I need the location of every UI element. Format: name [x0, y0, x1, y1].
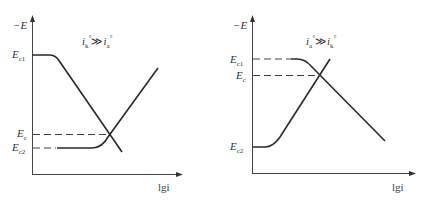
x-axis [253, 171, 417, 176]
y-axis-label: −E [233, 20, 247, 31]
x-axis-label: lgi [392, 182, 404, 193]
level-label-ec2: Ec2 [12, 142, 25, 156]
level-label-ec1: Ec1 [12, 49, 25, 63]
cathodic-curve [291, 59, 385, 141]
y-axis [30, 15, 35, 175]
level-label-ec: Ec [236, 70, 246, 84]
anodic-curve [253, 59, 330, 147]
y-axis [250, 15, 255, 174]
x-axis [33, 172, 184, 177]
level-label-ec1: Ec1 [230, 54, 243, 68]
x-axis-label: lgi [158, 182, 170, 193]
diagram-left-plot [0, 0, 213, 201]
y-axis-label: −E [13, 20, 27, 31]
condition-label: ik°≫ia° [82, 35, 112, 50]
condition-label: ia°≫ik° [306, 35, 336, 50]
polarization-diagram-right: −E Ec1 Ec Ec2 ia°≫ik° lgi [213, 0, 426, 201]
level-label-ec2: Ec2 [230, 141, 243, 155]
polarization-diagram-left: −E Ec1 Ec Ec2 ik°≫ia° lgi [0, 0, 213, 201]
